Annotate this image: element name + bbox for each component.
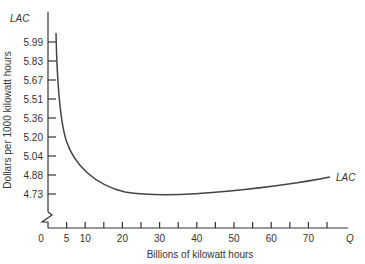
x-tick-label: 40 <box>191 233 203 244</box>
y-tick-label: 5.99 <box>24 37 44 48</box>
lac-curve <box>56 33 330 195</box>
y-tick-label: 5.51 <box>24 94 44 105</box>
lac-chart: 5.995.835.675.515.365.205.044.884.73 051… <box>0 0 365 264</box>
x-tick-label: 60 <box>266 233 278 244</box>
y-tick-label: 4.73 <box>24 189 44 200</box>
y-tick-label: 5.83 <box>24 56 44 67</box>
x-tick-label: 20 <box>117 233 129 244</box>
x-tick-label: 50 <box>228 233 240 244</box>
x-axis-label: Billions of kilowatt hours <box>147 249 254 260</box>
x-axis-symbol: Q <box>346 233 354 244</box>
y-tick-label: 5.04 <box>24 151 44 162</box>
x-tick-label: 30 <box>154 233 166 244</box>
x-tick-label: 70 <box>303 233 315 244</box>
y-tick-label: 5.36 <box>24 113 44 124</box>
x-tick-label: 0 <box>38 233 44 244</box>
y-axis-symbol: LAC <box>10 13 30 24</box>
curve-label: LAC <box>336 172 356 183</box>
x-tick-label: 5 <box>64 233 70 244</box>
y-tick-label: 4.88 <box>24 170 44 181</box>
x-tick-label: 10 <box>80 233 92 244</box>
y-axis-label: Dollars per 1000 kilowatt hours <box>2 51 13 188</box>
y-tick-label: 5.67 <box>24 75 44 86</box>
y-ticks: 5.995.835.675.515.365.205.044.884.73 <box>24 37 56 200</box>
x-ticks: 0510203040506070 <box>38 222 327 244</box>
y-tick-label: 5.20 <box>24 132 44 143</box>
axis-break <box>42 212 52 228</box>
